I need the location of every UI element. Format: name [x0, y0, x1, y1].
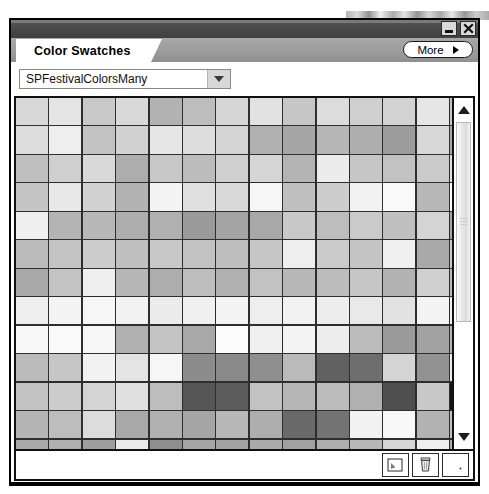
swatch-cell[interactable] [283, 411, 315, 438]
swatch-cell[interactable] [116, 212, 148, 239]
swatch-cell[interactable] [317, 126, 349, 153]
swatch-cell[interactable] [216, 240, 248, 267]
swatch-cell[interactable] [250, 183, 282, 210]
swatch-cell[interactable] [83, 440, 115, 451]
swatch-cell[interactable] [150, 297, 182, 324]
swatch-cell[interactable] [317, 383, 349, 410]
swatch-cell[interactable] [283, 183, 315, 210]
swatch-cell[interactable] [16, 183, 48, 210]
swatch-cell[interactable] [417, 240, 449, 267]
swatch-cell[interactable] [250, 240, 282, 267]
swatch-cell[interactable] [16, 440, 48, 451]
scrollbar-thumb[interactable] [456, 122, 471, 322]
swatch-cell[interactable] [216, 126, 248, 153]
swatch-cell[interactable] [49, 212, 81, 239]
swatch-cell[interactable] [283, 297, 315, 324]
swatch-cell[interactable] [183, 212, 215, 239]
swatch-cell[interactable] [317, 98, 349, 125]
swatch-cell[interactable] [49, 326, 81, 353]
swatch-cell[interactable] [183, 126, 215, 153]
swatch-cell[interactable] [283, 269, 315, 296]
swatch-cell[interactable] [49, 383, 81, 410]
tab-color-swatches[interactable]: Color Swatches [16, 39, 151, 62]
close-button[interactable] [460, 21, 476, 36]
swatch-cell[interactable] [250, 212, 282, 239]
scroll-up-button[interactable] [454, 100, 473, 120]
swatch-cell[interactable] [16, 126, 48, 153]
swatch-cell[interactable] [350, 183, 382, 210]
swatch-cell[interactable] [150, 354, 182, 381]
swatch-cell[interactable] [283, 212, 315, 239]
swatch-cell[interactable] [49, 183, 81, 210]
swatch-cell[interactable] [417, 183, 449, 210]
swatch-options-button[interactable] [442, 453, 469, 477]
swatch-cell[interactable] [116, 383, 148, 410]
swatch-cell[interactable] [350, 297, 382, 324]
swatch-cell[interactable] [250, 297, 282, 324]
swatch-cell[interactable] [350, 269, 382, 296]
swatch-cell[interactable] [250, 440, 282, 451]
swatch-cell[interactable] [49, 297, 81, 324]
swatch-cell[interactable] [183, 98, 215, 125]
swatch-cell[interactable] [16, 411, 48, 438]
swatch-cell[interactable] [383, 411, 415, 438]
swatch-cell[interactable] [383, 212, 415, 239]
swatch-cell[interactable] [216, 297, 248, 324]
swatch-cell[interactable] [283, 126, 315, 153]
swatch-cell[interactable] [317, 354, 349, 381]
swatch-cell[interactable] [150, 240, 182, 267]
swatch-cell[interactable] [250, 155, 282, 182]
scroll-down-button[interactable] [454, 427, 473, 447]
swatch-cell[interactable] [417, 98, 449, 125]
swatch-cell[interactable] [216, 212, 248, 239]
swatch-cell[interactable] [216, 269, 248, 296]
swatch-cell[interactable] [283, 98, 315, 125]
swatch-cell[interactable] [317, 326, 349, 353]
swatch-cell[interactable] [417, 411, 449, 438]
swatch-cell[interactable] [16, 212, 48, 239]
swatch-cell[interactable] [383, 269, 415, 296]
swatch-cell[interactable] [116, 98, 148, 125]
swatch-cell[interactable] [150, 269, 182, 296]
swatch-cell[interactable] [116, 126, 148, 153]
swatch-cell[interactable] [216, 98, 248, 125]
swatch-cell[interactable] [116, 269, 148, 296]
swatch-cell[interactable] [49, 155, 81, 182]
swatch-cell[interactable] [183, 155, 215, 182]
swatch-cell[interactable] [150, 155, 182, 182]
swatch-cell[interactable] [383, 155, 415, 182]
swatch-cell[interactable] [16, 354, 48, 381]
swatch-cell[interactable] [283, 240, 315, 267]
swatch-cell[interactable] [49, 240, 81, 267]
swatch-library-arrow-box[interactable] [207, 70, 230, 88]
swatch-cell[interactable] [417, 126, 449, 153]
grip-dots-icon[interactable] [24, 45, 29, 57]
swatch-cell[interactable] [383, 326, 415, 353]
swatch-cell[interactable] [83, 183, 115, 210]
swatch-grid[interactable] [16, 98, 464, 450]
scrollbar-track[interactable] [456, 122, 471, 425]
swatch-cell[interactable] [317, 155, 349, 182]
swatch-cell[interactable] [350, 354, 382, 381]
swatch-cell[interactable] [250, 383, 282, 410]
swatch-cell[interactable] [83, 383, 115, 410]
minimize-button[interactable] [441, 21, 457, 36]
swatch-cell[interactable] [116, 155, 148, 182]
swatch-cell[interactable] [417, 354, 449, 381]
swatch-cell[interactable] [83, 240, 115, 267]
swatch-cell[interactable] [216, 354, 248, 381]
swatch-cell[interactable] [350, 126, 382, 153]
swatch-cell[interactable] [183, 383, 215, 410]
swatch-cell[interactable] [116, 297, 148, 324]
swatch-cell[interactable] [183, 354, 215, 381]
swatch-cell[interactable] [150, 440, 182, 451]
swatch-cell[interactable] [16, 269, 48, 296]
swatch-cell[interactable] [383, 98, 415, 125]
swatch-cell[interactable] [317, 183, 349, 210]
swatch-cell[interactable] [350, 326, 382, 353]
swatch-cell[interactable] [216, 383, 248, 410]
swatch-cell[interactable] [250, 98, 282, 125]
swatch-cell[interactable] [49, 440, 81, 451]
swatch-cell[interactable] [49, 411, 81, 438]
swatch-cell[interactable] [183, 297, 215, 324]
